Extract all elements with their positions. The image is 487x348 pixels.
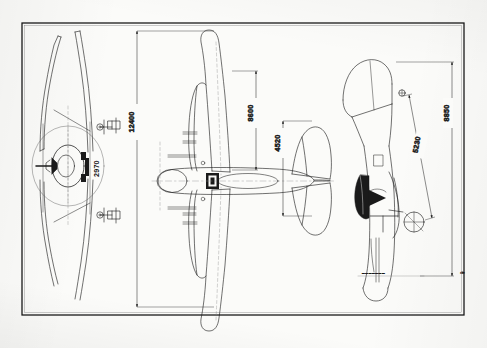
front-view-right-wing	[75, 31, 93, 152]
side-view-scale-note: — — — — — — —	[362, 272, 385, 275]
side-view-wing-fairing	[389, 172, 403, 238]
dimension-wingspan-value: 12400	[127, 112, 136, 133]
dimension-overall-length: 8600	[232, 71, 258, 170]
plan-view	[152, 30, 336, 331]
front-view-reference-lines	[43, 122, 90, 214]
dimension-overall-length-value: 8600	[246, 105, 255, 122]
front-view-lower-left-wing	[40, 180, 58, 286]
corner-mark: ✑	[460, 269, 465, 276]
corner-mark-glyph: ✑	[460, 269, 465, 276]
dimension-tailplane-span-value: 4520	[273, 135, 282, 152]
side-view-ground-note: — — — — — — —	[358, 272, 424, 276]
front-view	[32, 31, 120, 300]
side-view-tail-strut	[371, 238, 379, 282]
dimension-datum-height: 5230	[403, 94, 435, 220]
dimension-track-width: 2970	[92, 160, 101, 177]
technical-drawing-canvas: 2970	[0, 0, 487, 348]
dimension-wingspan: 12400	[127, 31, 214, 307]
side-view-wing-root	[355, 175, 386, 219]
side-view-main-gear	[370, 212, 424, 232]
front-view-spinner	[36, 158, 57, 174]
front-view-detail-blocks	[81, 152, 89, 182]
dimension-track-width-value: 2970	[92, 160, 101, 177]
side-view: — — — — — — —	[343, 60, 424, 301]
plan-view-wing-details	[168, 132, 197, 224]
plan-view-port-wing	[189, 30, 230, 172]
side-view-vertical-fin	[343, 60, 392, 117]
side-view-canopy	[369, 155, 386, 192]
front-view-lower-right-wing	[75, 179, 93, 300]
dimension-side-overall-length-value: 8850	[442, 105, 451, 122]
front-view-wing-struts	[54, 110, 90, 222]
plan-view-starboard-wing	[189, 189, 230, 331]
side-view-pivot-marker	[399, 90, 405, 96]
drawing-sheet: 2970	[0, 0, 487, 348]
